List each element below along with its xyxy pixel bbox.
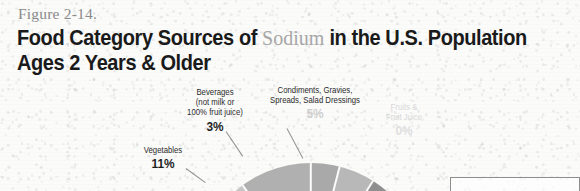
callout-fruits: Fruits & Fruit Juice 0% [374,103,435,138]
callout-condiments: Condiments, Gravies, Spreads, Salad Dres… [259,86,371,121]
callout-condiments-line-1: Condiments, Gravies, [278,86,353,95]
callout-vegetables-percent: 11% [132,157,195,171]
leader-line-condiments [287,128,304,158]
callout-beverages: Beverages (not milk or 100% fruit juice)… [180,88,250,134]
title-prefix: Food Category Sources of [17,26,262,50]
callout-fruits-line-1: Fruits & [391,103,418,112]
callout-beverages-percent: 3% [180,120,250,134]
title-line-1: Food Category Sources of Sodium in the U… [17,26,524,51]
figure-title: Food Category Sources of Sodium in the U… [17,26,562,76]
callout-beverages-line-3: 100% fruit juice) [187,108,243,117]
callout-condiments-line-2: Spreads, Salad Dressings [270,96,360,105]
callout-beverages-line-2: (not milk or [196,98,234,107]
figure-content: Figure 2-14. Food Category Sources of So… [0,0,580,191]
slice-divider [310,163,312,191]
callout-condiments-percent: 5% [259,107,371,121]
title-line-2: Ages 2 Years & Older [17,51,524,76]
callout-beverages-line-1: Beverages [196,88,233,97]
title-emphasis-sodium: Sodium [262,26,324,50]
callout-vegetables: Vegetables 11% [132,146,195,171]
leader-line-beverages [226,131,244,156]
callout-fruits-percent: 0% [374,124,435,138]
title-suffix: in the U.S. Population [324,26,527,50]
callout-vegetables-line-1: Vegetables [144,146,183,155]
figure-page: Figure 2-14. Food Category Sources of So… [0,0,580,191]
callout-fruits-line-2: Fruit Juice [386,113,422,122]
figure-number: Figure 2-14. [18,5,97,23]
pie-chart [195,163,427,191]
legend-box [450,177,580,191]
